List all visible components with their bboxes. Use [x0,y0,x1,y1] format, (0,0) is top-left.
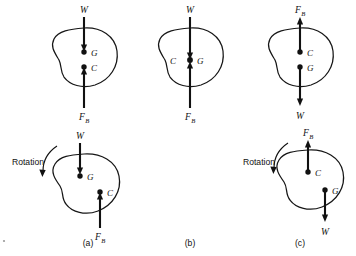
rotation-arrowhead [39,170,45,177]
panel-bottom-c: Rotation FB W C G [243,128,344,237]
panel-bottom-a: Rotation W FB G C [12,131,120,244]
label-point-c: C [170,56,177,66]
body-outline [53,154,120,213]
weight-arrowhead [297,99,303,107]
label-point-g: G [332,186,339,196]
point-g [77,173,82,178]
panel-caption-a: (a) [83,238,94,248]
rotation-label: Rotation [243,157,275,167]
label-weight: W [296,111,305,121]
point-cg [187,57,193,63]
label-point-g: G [197,56,204,66]
label-weight: W [321,227,330,237]
point-g [81,49,86,54]
physics-figure: W FB G C W FB G C FB W C G Rotation [0,0,356,256]
label-point-g: G [87,172,94,182]
label-point-c: C [91,63,98,73]
label-point-g: G [307,63,314,73]
point-c [97,189,102,194]
label-point-c: C [315,168,322,178]
rotation-arrowhead [270,167,276,174]
rotation-arc [274,143,288,168]
label-point-c: C [107,188,114,198]
point-c [297,49,302,54]
label-buoyant: FB [78,112,89,124]
body-outline [277,150,344,209]
figure-canvas: W FB G C W FB G C FB W C G Rotation [0,0,356,256]
panel-top-c: FB W C G [269,5,334,121]
buoyant-arrowhead [305,140,311,148]
point-c [81,64,86,69]
buoyant-arrowhead [297,17,303,25]
label-weight: W [186,5,195,15]
label-weight: W [76,131,85,141]
panel-top-a: W FB G C [53,5,118,124]
rotation-arc [43,146,57,171]
label-buoyant: FB [302,128,313,140]
panel-top-b: W FB G C [159,5,224,124]
label-point-g: G [91,48,98,58]
rotation-label: Rotation [12,157,44,167]
label-buoyant: FB [294,5,305,17]
panel-caption-b: (b) [185,238,196,248]
label-buoyant: FB [94,232,105,244]
label-buoyant: FB [184,112,195,124]
panel-caption-c: (c) [295,238,305,248]
label-weight: W [80,5,89,15]
point-g [322,187,327,192]
point-c [305,169,310,174]
scan-speck [3,240,5,242]
weight-arrowhead [322,215,328,223]
point-g [297,64,302,69]
label-point-c: C [307,48,314,58]
